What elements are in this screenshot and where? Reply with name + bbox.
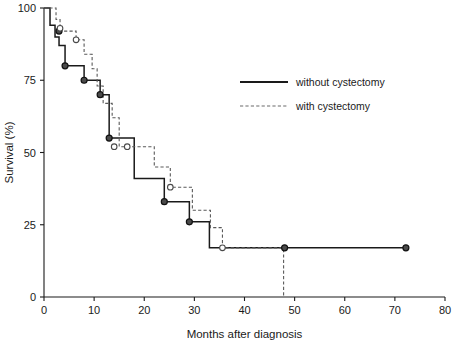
censor-markers (56, 25, 409, 250)
x-tick-label: 80 (439, 304, 451, 316)
x-tick-label: 50 (289, 304, 301, 316)
censor-mark-filled (161, 199, 167, 205)
x-tick-label: 20 (138, 304, 150, 316)
axis-titles: Months after diagnosisSurvival (%) (3, 121, 303, 340)
censor-mark-filled (186, 219, 192, 225)
censor-mark-open (220, 245, 226, 251)
censor-mark-filled (97, 92, 103, 98)
censor-mark-filled (403, 245, 409, 251)
y-axis-title: Survival (%) (3, 121, 15, 183)
censor-mark-open (73, 37, 79, 43)
legend-label-with-cystectomy: with cystectomy (295, 100, 371, 112)
censor-mark-filled (62, 63, 68, 69)
legend-label-without-cystectomy: without cystectomy (295, 76, 385, 88)
censor-mark-open (168, 184, 174, 190)
kaplan-meier-plot: 010203040506070800255075100 without cyst… (0, 0, 459, 344)
censor-mark-open (124, 144, 130, 150)
y-tick-label: 0 (30, 291, 36, 303)
x-tick-label: 10 (88, 304, 100, 316)
survival-curves (44, 8, 406, 297)
x-tick-label: 40 (238, 304, 250, 316)
y-tick-label: 75 (24, 74, 36, 86)
x-tick-label: 0 (41, 304, 47, 316)
survival-chart-figure: 010203040506070800255075100 without cyst… (0, 0, 459, 344)
y-tick-label: 25 (24, 219, 36, 231)
censor-mark-filled (106, 135, 112, 141)
x-tick-label: 60 (339, 304, 351, 316)
y-tick-label: 100 (18, 2, 36, 14)
survival-curve-dashed (44, 8, 284, 297)
censor-mark-open (57, 25, 63, 31)
axes: 010203040506070800255075100 (18, 2, 451, 316)
survival-curve-solid (44, 8, 406, 248)
chart-legend: without cystectomywith cystectomy (240, 76, 385, 112)
x-axis-title: Months after diagnosis (187, 328, 303, 340)
censor-mark-open (111, 144, 117, 150)
y-tick-label: 50 (24, 147, 36, 159)
x-tick-label: 30 (188, 304, 200, 316)
censor-mark-filled (282, 245, 288, 251)
x-tick-label: 70 (389, 304, 401, 316)
censor-mark-filled (81, 77, 87, 83)
